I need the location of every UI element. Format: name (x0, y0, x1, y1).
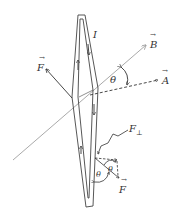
magnetic-field-vector-mark: → (150, 31, 156, 39)
force-upper-arrow (46, 69, 72, 98)
angle-main-label: θ (110, 74, 116, 85)
angle-arc-main (121, 67, 128, 85)
fperp-leader-zigzag (98, 130, 128, 154)
area-vector-mark: → (162, 67, 168, 75)
angle-lower-left-label: θ (96, 170, 101, 179)
magnetic-field-line (13, 45, 146, 160)
angle-lower-right-label: θ (108, 165, 113, 174)
area-vector-label: A (161, 75, 169, 86)
current-loop-diagram: I B → A → θ F → F ⊥ θ θ F → (0, 0, 180, 220)
area-vector-arrow (90, 80, 158, 95)
force-perpendicular-subscript: ⊥ (136, 129, 143, 137)
force-upper-vector-mark: → (39, 54, 45, 62)
force-upper-label: F (36, 62, 45, 73)
parallel-component-dashed (117, 161, 118, 176)
perp-component-dashed (95, 158, 117, 160)
force-lower-label: F (118, 184, 127, 195)
magnetic-field-label: B (149, 39, 157, 50)
current-label: I (92, 29, 98, 40)
force-lower-vector-mark: → (121, 176, 127, 184)
